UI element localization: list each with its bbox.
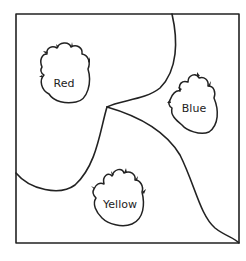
paw-print-icon-yellow: Yellow xyxy=(91,168,146,226)
boundary-red-blue xyxy=(107,14,176,107)
region-label-yellow: Yellow xyxy=(102,198,137,211)
region-label-red: Red xyxy=(54,77,75,90)
region-label-blue: Blue xyxy=(182,102,207,115)
paw-print-icon-blue: Blue xyxy=(167,72,217,133)
boundary-red-yellow xyxy=(16,107,107,191)
region-map: Red Blue Yellow xyxy=(0,0,246,261)
paw-print-icon-red: Red xyxy=(39,42,90,103)
